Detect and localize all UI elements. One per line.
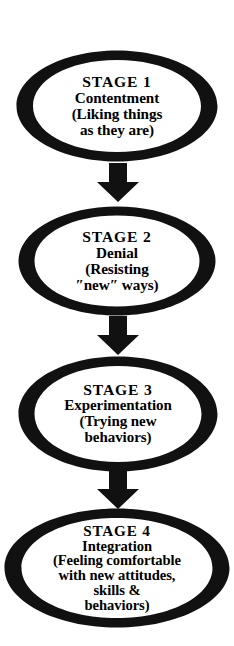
stage-text-line: (Liking things	[18, 106, 216, 122]
stage-label-stage-1: STAGE 1 Contentment (Liking things as th…	[16, 74, 218, 139]
down-arrow-icon	[96, 163, 140, 203]
stage-text-line: Experimentation	[20, 398, 216, 414]
stage-title-line: STAGE 4	[6, 523, 228, 539]
stage-node-stage-1: STAGE 1 Contentment (Liking things as th…	[16, 50, 218, 162]
stage-text-line: as they are)	[18, 122, 216, 138]
stage-title-line: STAGE 2	[20, 229, 214, 246]
down-arrow-icon	[96, 470, 140, 510]
stage-title-line: STAGE 1	[18, 74, 216, 91]
stage-title-line: STAGE 3	[20, 382, 216, 399]
stage-text-line: (Resisting	[20, 261, 214, 277]
stage-text-line: ″new″ ways)	[20, 277, 214, 293]
stage-node-stage-3: STAGE 3 Experimentation (Trying new beha…	[18, 356, 218, 472]
stage-label-stage-2: STAGE 2 Denial (Resisting ″new″ ways)	[18, 229, 216, 294]
stage-node-stage-2: STAGE 2 Denial (Resisting ″new″ ways)	[18, 206, 216, 316]
stages-of-change-diagram: STAGE 1 Contentment (Liking things as th…	[0, 0, 234, 646]
stage-label-stage-3: STAGE 3 Experimentation (Trying new beha…	[18, 382, 218, 446]
stage-text-line: with new attitudes,	[6, 568, 228, 583]
stage-text-line: Integration	[6, 539, 228, 554]
stage-text-line: Denial	[20, 245, 214, 261]
stage-text-line: behaviors)	[20, 430, 216, 446]
stage-label-stage-4: STAGE 4 Integration (Feeling comfortable…	[4, 523, 230, 613]
stage-text-line: (Feeling comfortable	[6, 553, 228, 568]
stage-text-line: (Trying new	[20, 414, 216, 430]
stage-text-line: skills &	[6, 583, 228, 598]
stage-node-stage-4: STAGE 4 Integration (Feeling comfortable…	[4, 508, 230, 628]
stage-text-line: Contentment	[18, 90, 216, 106]
down-arrow-icon	[96, 316, 140, 356]
stage-text-line: behaviors)	[6, 598, 228, 613]
